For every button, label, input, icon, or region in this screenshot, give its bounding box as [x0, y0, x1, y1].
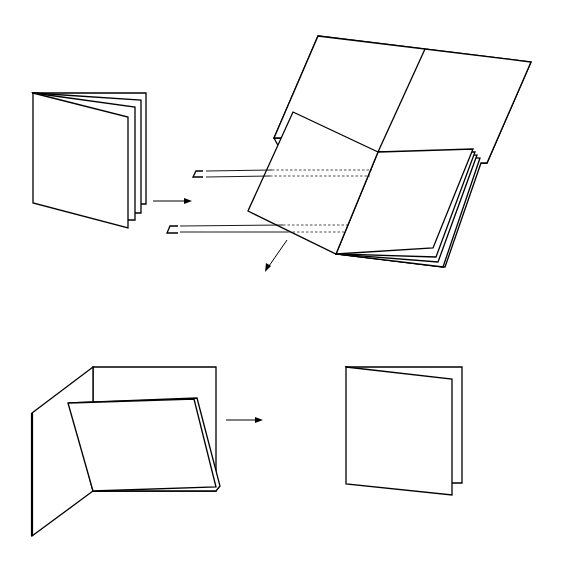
step-4-finished-booklet — [346, 367, 462, 495]
pages-front — [68, 399, 216, 491]
diagram — [0, 0, 564, 567]
arrow-2-icon — [265, 240, 287, 272]
arrow-3-icon — [226, 417, 263, 423]
step-1-nested-sheets — [33, 93, 146, 228]
arrow-1-icon — [153, 198, 192, 204]
step-3-cover-folding — [32, 367, 220, 536]
sheet-front — [33, 93, 128, 228]
booklet-assembly-diagram — [0, 0, 564, 567]
step-2-cover-and-pages — [167, 36, 531, 267]
booklet-front-cover — [346, 367, 452, 495]
